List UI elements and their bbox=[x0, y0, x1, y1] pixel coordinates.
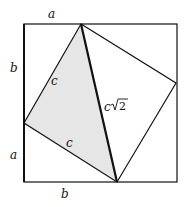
label-top-a: a bbox=[48, 7, 55, 21]
label-left-a: a bbox=[10, 148, 17, 162]
diagram-canvas: a b a b c c c 2 bbox=[0, 0, 188, 207]
label-left-b: b bbox=[10, 61, 18, 75]
label-leg-upper-c: c bbox=[51, 74, 58, 88]
label-leg-lower-c: c bbox=[66, 136, 73, 150]
label-bottom-b: b bbox=[61, 187, 69, 201]
label-hyp-c: c bbox=[104, 100, 111, 114]
label-hyp-root: 2 bbox=[119, 100, 126, 113]
